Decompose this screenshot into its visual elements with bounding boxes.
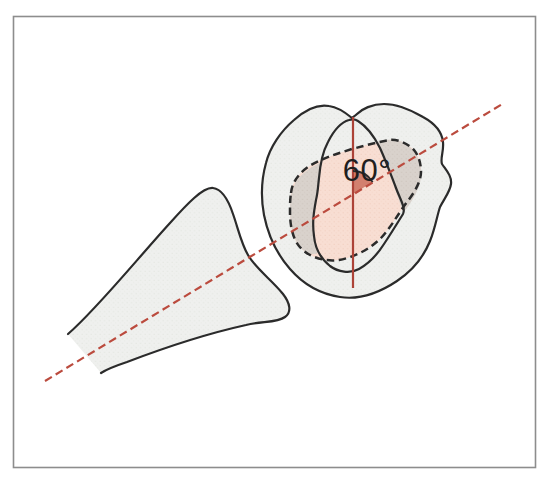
diagram-canvas: 60° xyxy=(0,0,547,482)
medical-diagram-figure: 60° xyxy=(0,0,547,482)
angle-label: 60° xyxy=(343,153,391,188)
